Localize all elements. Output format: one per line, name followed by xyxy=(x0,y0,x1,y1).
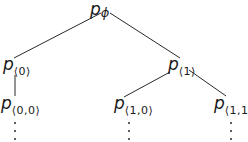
dot xyxy=(128,138,130,140)
node-root-base: p xyxy=(90,0,101,19)
dot xyxy=(14,122,16,124)
dot xyxy=(230,122,232,124)
node-p11-base: p xyxy=(214,93,225,113)
edge-root-to-p0 xyxy=(14,13,101,58)
tree-edges xyxy=(0,0,248,142)
edge-root-to-p1 xyxy=(110,13,180,58)
node-p0: p⟨0⟩ xyxy=(3,56,31,73)
dot xyxy=(230,138,232,140)
node-p10: p⟨1,0⟩ xyxy=(114,95,153,112)
node-p1-base: p xyxy=(168,54,179,74)
node-p00-subscript: ⟨0,0⟩ xyxy=(12,104,41,117)
node-p10-subscript: ⟨1,0⟩ xyxy=(125,104,154,117)
dot xyxy=(14,130,16,132)
node-p1: p⟨1⟩ xyxy=(168,56,196,73)
continuation-dots-p00 xyxy=(12,122,18,140)
node-p1-subscript: ⟨1⟩ xyxy=(179,65,196,78)
node-p0-base: p xyxy=(3,54,14,74)
node-root-subscript: ϕ xyxy=(101,5,110,20)
continuation-dots-p11 xyxy=(228,122,234,140)
node-p0-subscript: ⟨0⟩ xyxy=(14,65,31,78)
dot xyxy=(14,138,16,140)
node-p00-base: p xyxy=(1,93,12,113)
dot xyxy=(128,122,130,124)
dot xyxy=(128,130,130,132)
dot xyxy=(230,130,232,132)
edge-p1-to-p10 xyxy=(124,72,170,97)
node-root: pϕ xyxy=(90,1,110,18)
node-p11-subscript: ⟨1,1⟩ xyxy=(225,104,248,117)
continuation-dots-p10 xyxy=(126,122,132,140)
node-p11: p⟨1,1⟩ xyxy=(214,95,248,112)
node-p00: p⟨0,0⟩ xyxy=(1,95,40,112)
node-p10-base: p xyxy=(114,93,125,113)
